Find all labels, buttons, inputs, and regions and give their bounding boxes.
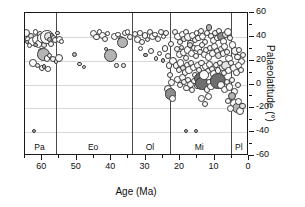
y-tick-minor (249, 143, 252, 144)
data-point (55, 31, 59, 35)
data-point (240, 52, 246, 58)
plot-area (24, 12, 248, 155)
y-tick-major (249, 155, 254, 156)
y-tick-label: 60 (256, 6, 266, 16)
data-point (227, 105, 234, 112)
data-point (163, 30, 169, 36)
y-tick-major (249, 84, 254, 85)
x-tick-major (76, 155, 77, 160)
epoch-label: Mi (169, 142, 230, 152)
x-tick-label: 0 (236, 161, 260, 171)
epoch-label: Pl (230, 142, 248, 152)
x-tick-label: 30 (133, 161, 157, 171)
y-tick-major (249, 36, 254, 37)
y-tick-major (249, 12, 254, 13)
y-tick-minor (249, 48, 252, 49)
y-tick-major (249, 60, 254, 61)
data-point (168, 41, 174, 47)
x-tick-label: 50 (64, 161, 88, 171)
x-tick-minor (58, 155, 59, 158)
epoch-label: Ol (131, 142, 168, 152)
data-point (72, 52, 77, 57)
data-point (105, 31, 110, 36)
data-point (205, 93, 212, 100)
data-point (229, 77, 235, 83)
data-point (45, 66, 51, 72)
data-point (227, 35, 233, 41)
y-tick-minor (249, 119, 252, 120)
x-tick-minor (162, 155, 163, 158)
x-tick-minor (196, 155, 197, 158)
epoch-label: Pa (24, 142, 55, 152)
data-point (161, 58, 165, 62)
y-tick-label: -60 (256, 149, 269, 159)
x-tick-minor (93, 155, 94, 158)
y-tick-major (249, 131, 254, 132)
y-tick-minor (249, 95, 252, 96)
data-point (77, 62, 81, 66)
data-point (202, 101, 208, 107)
epoch-band: PaEoOlMiPl (24, 140, 248, 155)
data-point (239, 103, 246, 110)
data-point (162, 45, 169, 52)
data-point (157, 51, 163, 57)
x-tick-major (110, 155, 111, 160)
y-tick-minor (249, 72, 252, 73)
x-tick-label: 40 (98, 161, 122, 171)
data-point (169, 95, 176, 102)
x-tick-major (145, 155, 146, 160)
x-tick-minor (231, 155, 232, 158)
data-point (117, 37, 128, 48)
data-point (121, 63, 125, 67)
y-tick-major (249, 107, 254, 108)
data-point (154, 56, 159, 61)
data-point (148, 48, 154, 54)
x-tick-major (41, 155, 42, 160)
x-tick-minor (127, 155, 128, 158)
data-point (235, 82, 241, 88)
x-tick-minor (24, 155, 25, 158)
y-tick-label: 0 (256, 78, 261, 88)
x-tick-label: 60 (29, 161, 53, 171)
x-axis-title: Age (Ma) (24, 186, 248, 197)
data-point (114, 63, 118, 67)
data-point (25, 40, 29, 44)
x-tick-major (214, 155, 215, 160)
data-point (206, 24, 213, 31)
data-point (33, 43, 37, 47)
data-point (143, 53, 147, 57)
data-point (102, 36, 108, 42)
y-axis-title: Palaeolatitude (°) (262, 18, 276, 148)
data-point (59, 39, 64, 44)
x-tick-major (179, 155, 180, 160)
y-tick-minor (249, 24, 252, 25)
palaeolatitude-vs-age-figure: PaEoOlMiPl 6050403020100 -60-40-20020406… (0, 0, 305, 207)
gridline (25, 108, 247, 109)
x-tick-label: 20 (167, 161, 191, 171)
data-point (238, 67, 244, 73)
data-point (82, 65, 86, 69)
epoch-label: Eo (55, 142, 131, 152)
data-point (167, 72, 173, 78)
gridline (25, 132, 247, 133)
data-point (138, 46, 143, 51)
x-tick-label: 10 (202, 161, 226, 171)
